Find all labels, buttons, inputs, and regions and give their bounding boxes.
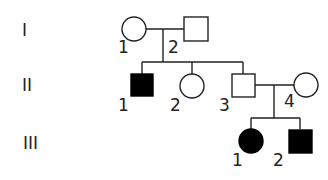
generation-label-i: I <box>22 20 27 40</box>
individual-i2-male-unaffected <box>184 17 208 41</box>
individual-number-iii2: 2 <box>273 150 284 170</box>
individual-ii3-male-unaffected <box>232 74 255 97</box>
generation-label-ii: II <box>22 75 32 95</box>
individual-ii2-female-unaffected <box>180 74 204 98</box>
individual-ii1-male-affected <box>131 74 153 96</box>
individual-number-i2: 2 <box>168 37 179 57</box>
individual-number-ii1: 1 <box>118 95 129 115</box>
generation-label-iii: III <box>23 133 38 153</box>
individual-number-ii3: 3 <box>219 95 230 115</box>
individual-ii4-female-unaffected <box>294 73 318 97</box>
individual-iii2-male-affected <box>289 130 312 153</box>
individual-number-ii2: 2 <box>170 95 181 115</box>
individual-number-ii4: 4 <box>284 91 295 111</box>
individual-number-iii1: 1 <box>232 150 243 170</box>
individual-number-i1: 1 <box>118 37 129 57</box>
pedigree-chart: I II III 1 2 1 2 3 4 1 2 <box>0 0 328 180</box>
